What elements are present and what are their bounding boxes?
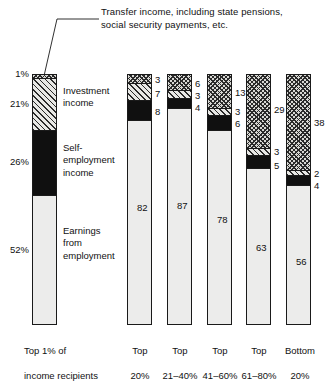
value-label-top20-selfemp: 8: [155, 107, 160, 117]
segment-self-employment-income: [168, 98, 191, 108]
category-line-2: 20%: [130, 370, 149, 381]
category-label-top-1-percent: Top 1% of income recipients: [24, 333, 129, 382]
category-line-1: Top: [172, 345, 187, 356]
segment-earnings-employment: [287, 185, 310, 324]
value-label-top1-transfer: 1%: [2, 69, 29, 79]
value-label-top6180-investment: 3: [274, 147, 279, 157]
value-label-top2140-transfer: 6: [195, 79, 200, 89]
value-label-top20-earnings: 82: [137, 203, 148, 213]
value-label-top1-earnings: 52%: [2, 245, 29, 255]
value-label-top2140-earnings: 87: [177, 201, 188, 211]
segment-transfer-income: [287, 75, 310, 170]
bar-bottom-20-percent: [286, 74, 311, 325]
value-label-top20-investment: 7: [155, 89, 160, 99]
segment-self-employment-income: [287, 175, 310, 185]
segment-investment-income: [128, 83, 151, 101]
category-line-1: Top: [212, 345, 227, 356]
value-label-top20-transfer: 3: [155, 75, 160, 85]
segment-earnings-employment: [168, 108, 191, 324]
category-line-2: 21–40%: [163, 370, 198, 381]
category-line-1: Top 1% of: [24, 345, 66, 356]
value-label-top2140-selfemp: 4: [195, 103, 200, 113]
bar-top-61-80-percent: [246, 74, 271, 325]
transfer-income-annotation: Transfer income, including state pension…: [101, 6, 323, 31]
category-line-1: Top: [251, 345, 266, 356]
category-line-1: Bottom: [285, 345, 315, 356]
value-label-top4160-transfer: 13: [235, 88, 246, 98]
value-label-top4160-selfemp: 6: [235, 119, 240, 129]
value-label-bottom20-selfemp: 4: [314, 181, 319, 191]
segment-earnings-employment: [128, 120, 151, 324]
segment-self-employment-income: [33, 130, 56, 195]
category-line-2: 41–60%: [203, 370, 238, 381]
category-label-top-20-percent: Top 20%: [123, 333, 157, 382]
category-label-top-41-60-percent: Top 41–60%: [199, 333, 241, 382]
bar-top-1-percent: [32, 74, 57, 325]
category-label-top-61-80-percent: Top 61–80%: [238, 333, 280, 382]
value-label-top4160-earnings: 78: [217, 215, 228, 225]
segment-transfer-income: [168, 75, 191, 90]
category-line-2: 20%: [290, 370, 309, 381]
category-label-bottom-20-percent: Bottom 20%: [277, 333, 323, 382]
bar-top-41-60-percent: [207, 74, 232, 325]
segment-transfer-income: [128, 75, 151, 83]
category-line-2: 61–80%: [242, 370, 277, 381]
value-label-top6180-selfemp: 5: [274, 161, 279, 171]
segment-investment-income: [33, 78, 56, 131]
category-line-1: Top: [132, 345, 147, 356]
legend-earnings-employment: Earnings from employment: [63, 225, 115, 262]
category-label-top-21-40-percent: Top 21–40%: [159, 333, 201, 382]
segment-self-employment-income: [128, 100, 151, 120]
value-label-bottom20-investment: 2: [314, 169, 319, 179]
bar-top-20-percent: [127, 74, 152, 325]
category-line-2: income recipients: [24, 370, 98, 381]
annotation-line-1: Transfer income, including state pension…: [101, 6, 283, 17]
segment-investment-income: [208, 108, 231, 116]
segment-self-employment-income: [247, 155, 270, 168]
segment-transfer-income: [247, 75, 270, 148]
legend-self-employment-income: Self- employment income: [63, 142, 115, 179]
annotation-line-2: social security payments, etc.: [101, 19, 323, 32]
value-label-top1-selfemp: 26%: [2, 157, 29, 167]
value-label-top2140-investment: 3: [195, 91, 200, 101]
segment-investment-income: [247, 148, 270, 156]
segment-earnings-employment: [33, 195, 56, 324]
segment-earnings-employment: [208, 130, 231, 324]
legend-investment-income: Investment income: [63, 85, 109, 110]
value-label-bottom20-earnings: 56: [296, 257, 307, 267]
segment-self-employment-income: [208, 115, 231, 130]
value-label-top1-investment: 21%: [2, 99, 29, 109]
value-label-top6180-earnings: 63: [256, 243, 267, 253]
value-label-bottom20-transfer: 38: [314, 118, 325, 128]
value-label-top6180-transfer: 29: [274, 105, 285, 115]
value-label-top4160-investment: 3: [235, 107, 240, 117]
segment-transfer-income: [208, 75, 231, 108]
segment-investment-income: [168, 90, 191, 98]
